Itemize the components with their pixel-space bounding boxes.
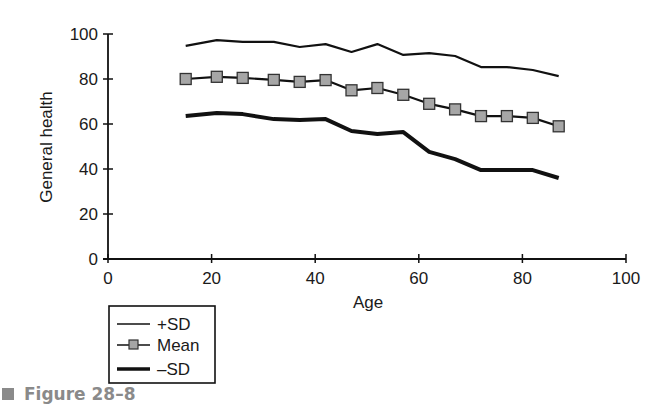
square-marker-icon	[372, 83, 383, 94]
square-marker-icon	[476, 111, 487, 122]
square-marker-icon	[553, 121, 564, 132]
square-marker-icon	[294, 76, 305, 87]
legend-label-minus-sd: –SD	[157, 360, 190, 379]
x-tick-label: 40	[306, 269, 325, 288]
y-tick-label: 60	[79, 115, 98, 134]
y-tick-label: 80	[79, 70, 98, 89]
x-axis-label: Age	[353, 293, 383, 312]
caption-square-icon	[2, 388, 14, 400]
y-axis: 020406080100	[70, 25, 113, 269]
square-marker-icon	[211, 71, 222, 82]
x-tick-label: 20	[202, 269, 221, 288]
x-tick-label: 100	[612, 269, 640, 288]
x-axis: 020406080100	[103, 254, 640, 288]
square-marker-icon	[129, 340, 138, 349]
y-tick-label: 0	[89, 250, 98, 269]
y-tick-label: 40	[79, 160, 98, 179]
legend-label-plus-sd: +SD	[157, 315, 191, 334]
minus-sd-line	[186, 113, 559, 178]
legend-label-mean: Mean	[157, 336, 200, 355]
series-layer	[180, 40, 564, 178]
square-marker-icon	[450, 104, 461, 115]
legend: +SD Mean –SD	[109, 306, 215, 383]
y-tick-label: 20	[79, 205, 98, 224]
square-marker-icon	[346, 85, 357, 96]
line-chart: 020406080100 020406080100 General health…	[0, 0, 666, 419]
square-marker-icon	[320, 75, 331, 86]
square-marker-icon	[180, 74, 191, 85]
square-marker-icon	[398, 89, 409, 100]
y-axis-label: General health	[37, 91, 56, 203]
y-tick-label: 100	[70, 25, 98, 44]
plus-sd-line	[186, 40, 559, 76]
square-marker-icon	[424, 98, 435, 109]
x-tick-label: 60	[409, 269, 428, 288]
figure-caption: Figure 28–8	[2, 384, 136, 404]
x-tick-label: 0	[103, 269, 112, 288]
square-marker-icon	[527, 112, 538, 123]
caption-text: Figure 28–8	[24, 384, 136, 404]
square-marker-icon	[237, 72, 248, 83]
x-tick-label: 80	[513, 269, 532, 288]
square-marker-icon	[268, 74, 279, 85]
square-marker-icon	[501, 111, 512, 122]
